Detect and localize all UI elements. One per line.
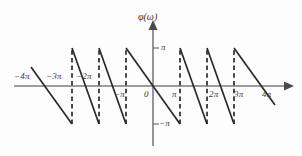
x-tick-label-2pi: 2π	[209, 90, 218, 99]
x-tick-label-minus-4pi: −4π	[14, 72, 30, 81]
x-tick-label-minus-3pi: −3π	[46, 72, 62, 81]
phase-spectrum-figure: φ(ω) π −π 0 −4π −3π −2π −π π 2π 3π 4π	[0, 0, 302, 156]
x-tick-label-minus-pi: −π	[114, 90, 125, 99]
x-tick-label-minus-2pi: −2π	[76, 72, 92, 81]
x-axis-arrowhead	[284, 82, 294, 91]
y-axis-label: φ(ω)	[138, 12, 157, 22]
x-tick-label-4pi: 4π	[262, 90, 271, 99]
x-tick-label-3pi: 3π	[234, 90, 243, 99]
origin-label: 0	[144, 90, 149, 99]
x-tick-label-pi: π	[172, 90, 177, 99]
y-tick-label-neg-pi: −π	[159, 119, 170, 128]
y-tick-label-pi: π	[161, 43, 166, 52]
